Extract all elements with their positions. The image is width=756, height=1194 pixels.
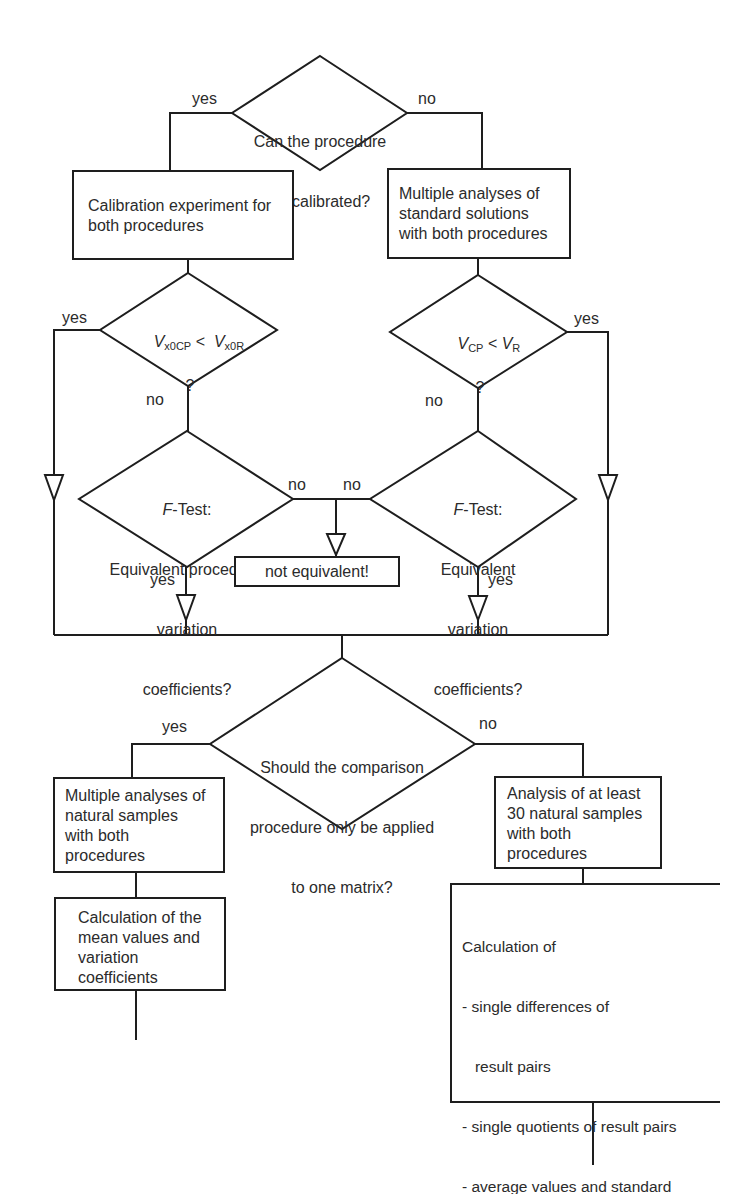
label-no: no (146, 391, 164, 409)
label-no: no (288, 476, 306, 494)
box-mean-calculation: Calculation of the mean values and varia… (54, 897, 226, 991)
label-no: no (479, 715, 497, 733)
label-no: no (343, 476, 361, 494)
box-mean-calc-text: Calculation of the mean values and varia… (78, 908, 202, 988)
label-yes: yes (162, 718, 187, 736)
decision-vx0-text: Vx0CP < Vx0R ? (110, 312, 270, 436)
box-calculation-list: Calculation of - single differences of r… (450, 883, 720, 1103)
box-calibration-experiment: Calibration experiment for both procedur… (72, 170, 294, 260)
box-calibration-text: Calibration experiment for both procedur… (88, 196, 271, 236)
arrow-down-icon (327, 534, 345, 555)
box-not-equivalent: not equivalent! (234, 556, 400, 587)
box-multiple-natural-analyses: Multiple analyses of natural samples wit… (53, 777, 225, 873)
decision-ftest-left-text: F-Test: Equivalent procedural variation … (82, 460, 292, 740)
box-not-equivalent-text: not equivalent! (236, 562, 398, 582)
decision-one-matrix-text: Should the comparison procedure only be … (236, 718, 448, 938)
flowchart-canvas: Can the procedure be calibrated? yes no … (0, 0, 756, 1194)
label-no: no (418, 90, 436, 108)
arrow-down-icon (599, 475, 617, 500)
label-yes: yes (150, 571, 175, 589)
box-natural-multi-text: Multiple analyses of natural samples wit… (65, 786, 206, 866)
box-standard-solutions: Multiple analyses of standard solutions … (387, 168, 571, 259)
label-yes: yes (192, 90, 217, 108)
decision-vcp-text: VCP < VR ? (400, 314, 560, 438)
arrow-down-icon (45, 475, 63, 500)
label-yes: yes (62, 309, 87, 327)
label-yes: yes (488, 571, 513, 589)
box-standard-text: Multiple analyses of standard solutions … (399, 184, 548, 244)
box-30-natural-samples: Analysis of at least 30 natural samples … (494, 776, 662, 869)
box-calc-list-text: Calculation of - single differences of r… (462, 897, 693, 1194)
box-natural-30-text: Analysis of at least 30 natural samples … (507, 784, 642, 864)
decision-ftest-right-text: F-Test: Equivalent variation coefficient… (398, 460, 558, 740)
label-yes: yes (574, 310, 599, 328)
label-no: no (425, 392, 443, 410)
